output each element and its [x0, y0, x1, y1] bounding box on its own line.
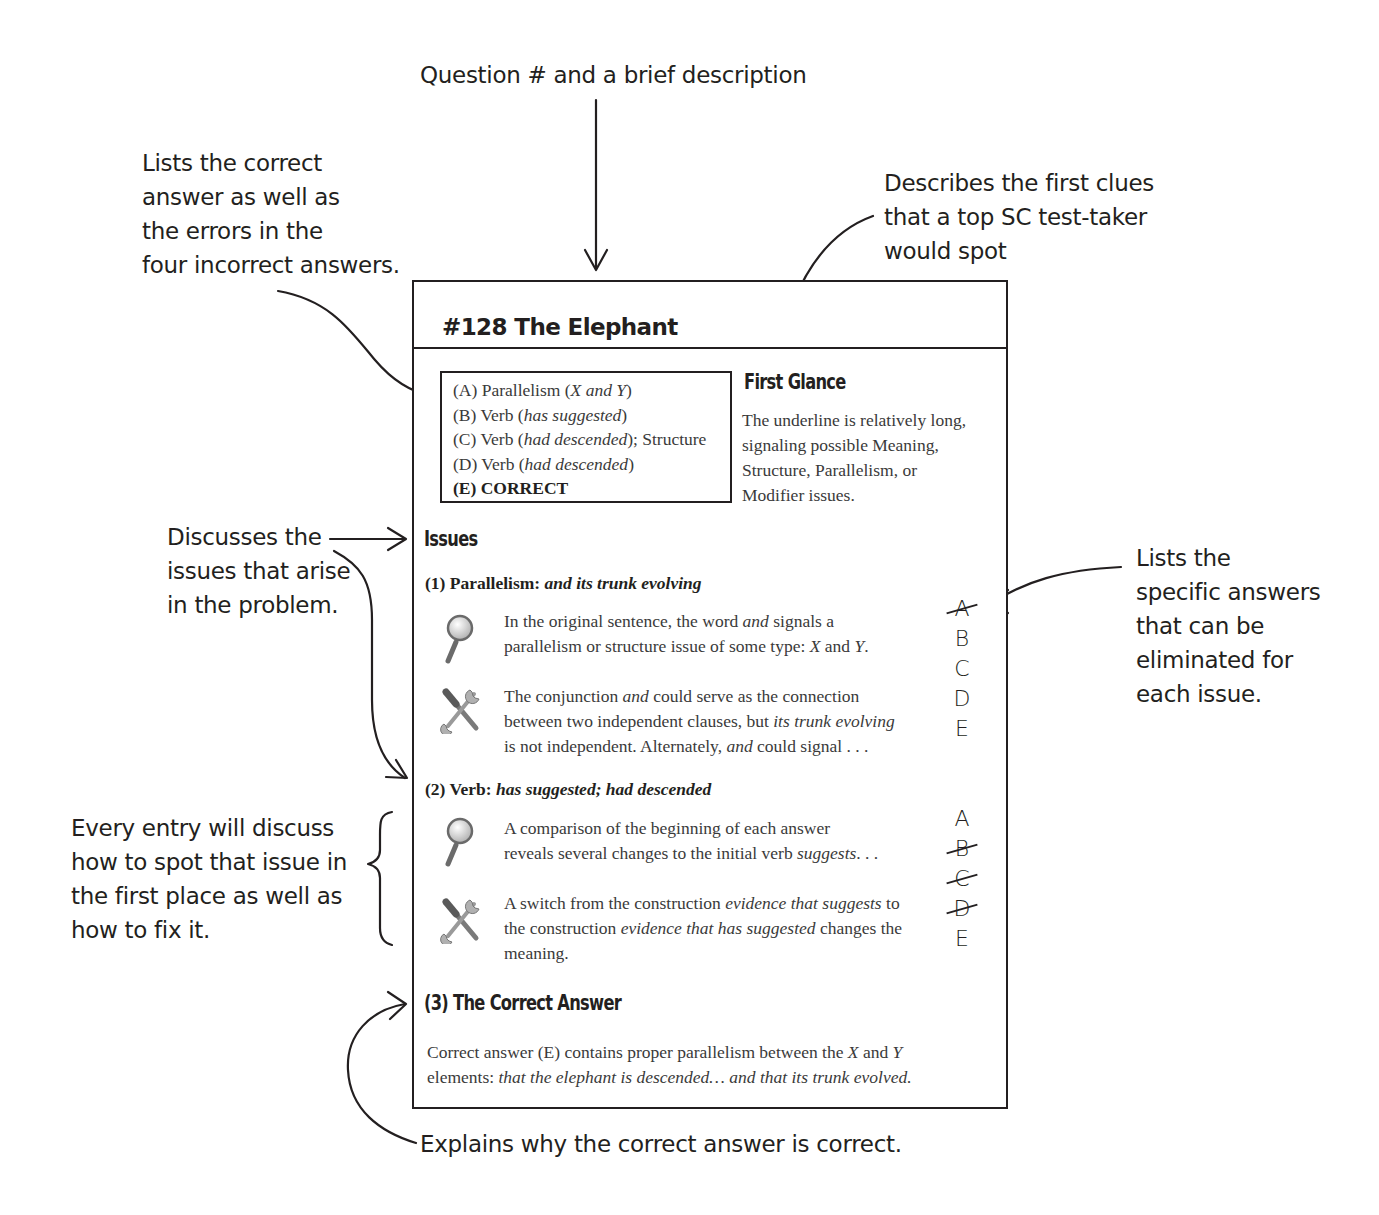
elim-letter-crossed: C — [950, 864, 974, 894]
issue-2-heading: (2) Verb: has suggested; had descended — [425, 779, 711, 800]
answer-summary-box: (A) Parallelism (X and Y) (B) Verb (has … — [440, 371, 732, 503]
answer-row: (C) Verb (had descended); Structure — [453, 427, 730, 452]
answer-row: (D) Verb (had descended) — [453, 452, 730, 477]
annotation-spot-and-fix: Every entry will discuss how to spot tha… — [71, 811, 347, 947]
issue-1-spot-text: In the original sentence, the word and s… — [504, 609, 869, 659]
elim-letter: A — [950, 804, 974, 834]
correct-answer-text: Correct answer (E) contains proper paral… — [427, 1040, 912, 1090]
annotation-first-glance: Describes the first clues that a top SC … — [884, 166, 1154, 268]
arrow-to-correct-answer — [348, 1004, 416, 1143]
brace — [368, 812, 392, 945]
elim-letter: D — [950, 684, 974, 714]
page-title: #128 The Elephant — [442, 314, 678, 340]
answer-row: (B) Verb (has suggested) — [453, 403, 730, 428]
annotation-correct-answer: Explains why the correct answer is corre… — [420, 1127, 902, 1161]
annotation-answers-list: Lists the correct answer as well as the … — [142, 146, 400, 282]
issue-2-eliminations: A B C D E — [950, 804, 974, 954]
tools-icon — [440, 686, 482, 738]
correct-answer-heading: (3) The Correct Answer — [424, 991, 621, 1015]
elim-letter: C — [950, 654, 974, 684]
answer-row: (A) Parallelism (X and Y) — [453, 378, 730, 403]
annotation-question-title: Question # and a brief description — [420, 58, 806, 92]
magnifying-glass-icon — [442, 817, 476, 871]
issue-2-fix-text: A switch from the construction evidence … — [504, 891, 902, 966]
issues-heading: Issues — [424, 527, 478, 551]
answer-row-correct: (E) CORRECT — [453, 476, 730, 501]
elim-letter: E — [950, 714, 974, 744]
issue-1-heading: (1) Parallelism: and its trunk evolving — [425, 573, 702, 594]
page-header: #128 The Elephant — [414, 282, 1006, 349]
elim-letter-crossed: B — [950, 834, 974, 864]
magnifying-glass-icon — [442, 614, 476, 668]
elim-letter: E — [950, 924, 974, 954]
first-glance-text: The underline is relatively long, signal… — [742, 408, 966, 508]
annotation-eliminate: Lists the specific answers that can be e… — [1136, 541, 1320, 711]
issue-1-eliminations: A B C D E — [950, 594, 974, 744]
issue-2-spot-text: A comparison of the beginning of each an… — [504, 816, 878, 866]
elim-letter-crossed: D — [950, 894, 974, 924]
elim-letter: B — [950, 624, 974, 654]
issue-1-fix-text: The conjunction and could serve as the c… — [504, 684, 895, 759]
tools-icon — [440, 896, 482, 948]
arrow-to-answers — [278, 291, 432, 396]
elim-letter-crossed: A — [950, 594, 974, 624]
sample-page: #128 The Elephant (A) Parallelism (X and… — [412, 280, 1008, 1109]
arrow-to-eliminations — [993, 567, 1121, 602]
annotation-issues: Discusses the issues that arise in the p… — [167, 520, 350, 622]
first-glance-heading: First Glance — [744, 370, 846, 394]
